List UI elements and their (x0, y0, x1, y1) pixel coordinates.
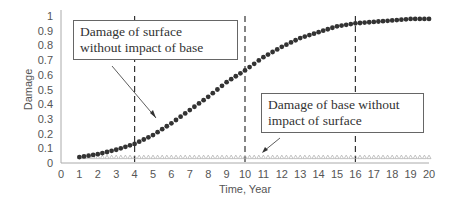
base-marker (280, 155, 284, 159)
surface-marker (390, 18, 395, 23)
y-tick-label: 0.6 (38, 69, 53, 81)
surface-marker (330, 25, 335, 30)
base-marker (211, 155, 215, 159)
base-marker (303, 155, 307, 159)
surface-marker (394, 18, 399, 23)
surface-marker (197, 101, 202, 106)
surface-marker (206, 94, 211, 99)
base-marker (142, 155, 146, 159)
surface-marker (417, 17, 422, 22)
x-tick-label: 10 (239, 168, 251, 180)
x-tick-label: 4 (132, 168, 138, 180)
surface-marker (243, 68, 248, 73)
x-tick-label: 13 (294, 168, 306, 180)
base-marker (409, 155, 413, 159)
y-tick-label: 1 (47, 10, 53, 22)
surface-marker (169, 121, 174, 126)
annotation-text: impact of surface (268, 113, 417, 129)
surface-marker (353, 21, 358, 26)
surface-marker (321, 28, 326, 33)
base-marker (160, 155, 164, 159)
base-marker (252, 155, 256, 159)
surface-marker (247, 65, 252, 70)
surface-marker (132, 141, 137, 146)
surface-marker (151, 133, 156, 138)
surface-marker (183, 111, 188, 116)
surface-marker (238, 71, 243, 76)
surface-marker (146, 135, 151, 140)
surface-marker (312, 31, 317, 36)
surface-marker (201, 98, 206, 103)
surface-marker (123, 144, 128, 149)
surface-marker (404, 17, 409, 22)
base-marker (156, 155, 160, 159)
surface-marker (95, 152, 100, 157)
surface-marker (164, 124, 169, 129)
base-marker (413, 155, 417, 159)
x-tick-label: 12 (276, 168, 288, 180)
base-marker (271, 155, 275, 159)
x-axis-label: Time, Year (219, 183, 272, 195)
surface-marker (279, 44, 284, 49)
surface-marker (141, 137, 146, 142)
base-marker (330, 155, 334, 159)
base-marker (248, 155, 252, 159)
surface-marker (427, 17, 432, 22)
surface-marker (261, 55, 266, 60)
base-marker (275, 155, 279, 159)
base-marker (146, 155, 150, 159)
surface-marker (293, 38, 298, 43)
base-marker (174, 155, 178, 159)
base-marker (151, 155, 155, 159)
surface-marker (224, 80, 229, 85)
surface-marker (358, 21, 363, 26)
surface-marker (316, 30, 321, 35)
y-tick-label: 0.2 (38, 128, 53, 140)
surface-marker (137, 139, 142, 144)
surface-marker (215, 87, 220, 92)
x-tick-label: 16 (349, 168, 361, 180)
surface-marker (422, 17, 427, 22)
surface-marker (367, 20, 372, 25)
arrowhead-icon (262, 147, 268, 153)
surface-marker (339, 23, 344, 28)
base-marker (427, 155, 431, 159)
base-marker (344, 155, 348, 159)
base-marker (119, 155, 123, 159)
surface-marker (192, 104, 197, 109)
base-marker (312, 155, 316, 159)
surface-marker (413, 17, 418, 22)
base-marker (358, 155, 362, 159)
base-marker (349, 155, 353, 159)
base-marker (123, 155, 127, 159)
base-marker (376, 155, 380, 159)
base-marker (386, 155, 390, 159)
base-marker (399, 155, 403, 159)
x-tick-label: 7 (187, 168, 193, 180)
surface-marker (344, 22, 349, 27)
surface-marker (91, 153, 96, 158)
base-marker (326, 155, 330, 159)
surface-marker (210, 91, 215, 96)
base-marker (238, 155, 242, 159)
base-marker (206, 155, 210, 159)
surface-marker (381, 19, 386, 24)
x-tick-label: 14 (312, 168, 324, 180)
annotation-base: Damage of base without impact of surface (261, 93, 424, 133)
chart: 0123456789101112131415161718192000.10.20… (0, 0, 457, 207)
y-tick-label: 0.5 (38, 84, 53, 96)
annotation-text: Damage of base without (268, 97, 417, 113)
surface-marker (178, 114, 183, 119)
x-tick-label: 17 (368, 168, 380, 180)
surface-marker (371, 19, 376, 24)
surface-marker (174, 118, 179, 123)
base-marker (215, 155, 219, 159)
base-marker (284, 155, 288, 159)
surface-marker (105, 150, 110, 155)
base-marker (289, 155, 293, 159)
base-marker (418, 155, 422, 159)
surface-marker (160, 127, 165, 132)
base-marker (321, 155, 325, 159)
base-marker (404, 155, 408, 159)
y-tick-label: 0.8 (38, 39, 53, 51)
